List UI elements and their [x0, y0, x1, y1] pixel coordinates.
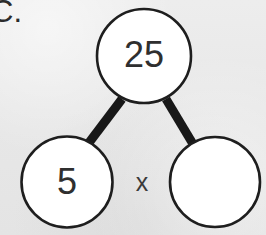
factor-tree-worksheet: C. 25 5 x — [0, 0, 266, 235]
problem-label: C. — [0, 0, 22, 27]
node-value-left-factor: 5 — [21, 159, 113, 205]
multiplication-operator: x — [124, 166, 160, 198]
branch-line-left — [88, 99, 122, 144]
branch-line-right — [166, 99, 193, 144]
node-circle-right-factor[interactable] — [170, 137, 260, 227]
node-value-root: 25 — [95, 32, 193, 78]
